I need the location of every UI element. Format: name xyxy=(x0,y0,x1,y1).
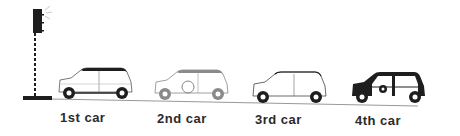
car-3-label: 3rd car xyxy=(255,112,302,127)
car-3-icon xyxy=(253,72,326,103)
car-2-icon xyxy=(155,70,228,100)
car-4-label: 4th car xyxy=(355,113,401,128)
car-2-label: 2nd car xyxy=(157,111,207,126)
car-4-icon xyxy=(352,72,425,103)
traffic-light-icon xyxy=(23,6,52,100)
car-1-icon xyxy=(59,68,132,99)
car-1-label: 1st car xyxy=(60,110,105,125)
